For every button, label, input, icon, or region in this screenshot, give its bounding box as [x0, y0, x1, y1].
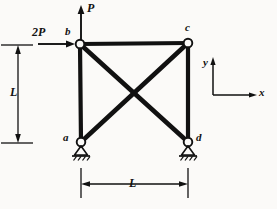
joint-c [184, 39, 193, 48]
coordinate-axes-drawing [210, 57, 257, 98]
axis-arrowhead-y [210, 57, 215, 65]
pin-support-a [72, 146, 90, 161]
axis-arrowhead-x [249, 92, 257, 97]
dim-arrowhead-up [15, 45, 21, 54]
node-label-b: b [65, 26, 71, 37]
dim-arrowhead-right [179, 181, 188, 187]
joint-d [184, 138, 193, 147]
dimension-label-L-horizontal: L [129, 177, 136, 189]
dim-arrowhead-down [15, 134, 21, 143]
dimension-label-L-vertical: L [10, 86, 17, 98]
dim-arrowhead-left [81, 181, 90, 187]
joint-a [77, 138, 86, 147]
member-top-chord-bc [80, 43, 188, 44]
truss-members [80, 43, 188, 142]
node-label-d: d [196, 132, 202, 143]
support-hatching-d [181, 156, 198, 160]
support-triangle-d [182, 146, 195, 155]
joint-b [76, 40, 85, 49]
force-label-P: P [87, 2, 94, 14]
force-label-2P: 2P [32, 26, 45, 38]
axis-label-y: y [203, 57, 208, 68]
support-hatching-a [74, 156, 91, 160]
node-label-c: c [185, 22, 190, 33]
truss-diagram: b c a d P 2P L L y x [0, 0, 277, 209]
support-triangle-a [75, 146, 88, 155]
pin-support-d [179, 146, 197, 161]
member-left-chord-ab [80, 44, 81, 142]
force-arrow-2P [38, 41, 75, 48]
node-label-a: a [63, 132, 69, 143]
axis-label-x: x [259, 87, 265, 98]
force-arrow-P [78, 5, 85, 40]
